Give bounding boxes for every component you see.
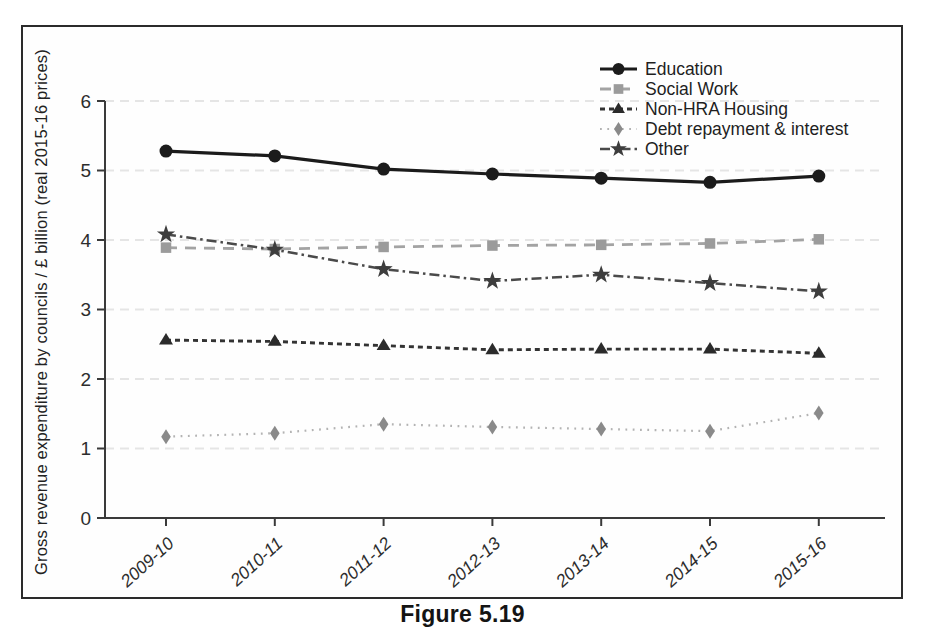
point-social-work-2009-10 [161, 242, 172, 253]
x-tick-label: 2010-11 [226, 533, 287, 591]
legend-label: Social Work [645, 79, 738, 99]
point-education-2015-16 [812, 170, 825, 183]
legend-label: Other [645, 139, 689, 159]
point-social-work-2011-12 [378, 242, 389, 253]
y-tick-label: 1 [80, 438, 91, 459]
point-non-hra-housing-2012-13 [485, 343, 499, 355]
y-tick-label: 0 [80, 508, 91, 529]
point-education-2011-12 [377, 163, 390, 176]
point-debt-repayment-interest-2014-15 [705, 424, 715, 439]
legend-label: Non-HRA Housing [645, 99, 788, 119]
y-tick-label: 5 [80, 160, 91, 181]
point-education-2010-11 [268, 149, 281, 162]
point-social-work-2012-13 [487, 240, 498, 251]
series-education [160, 145, 826, 189]
point-social-work-2014-15 [705, 238, 716, 249]
point-debt-repayment-interest-2013-14 [596, 422, 606, 437]
point-non-hra-housing-2014-15 [703, 342, 717, 354]
x-tick-label: 2015-16 [769, 533, 831, 592]
legend-item-education: Education [600, 59, 723, 79]
point-non-hra-housing-2011-12 [377, 339, 391, 351]
legend-diamond-icon [614, 122, 623, 136]
x-tick-label: 2014-15 [660, 533, 722, 592]
legend-square-icon [614, 84, 624, 94]
figure-caption: Figure 5.19 [0, 601, 925, 628]
point-education-2009-10 [160, 145, 173, 158]
legend-star-icon [610, 140, 627, 156]
figure-frame: 01234562009-102010-112011-122012-132013-… [21, 25, 903, 599]
point-education-2014-15 [704, 176, 717, 189]
point-other-2013-14 [592, 265, 610, 282]
series-social-work [161, 234, 824, 254]
point-other-2015-16 [810, 282, 828, 299]
legend-item-debt-repayment-interest: Debt repayment & interest [600, 119, 848, 139]
point-other-2010-11 [266, 240, 284, 257]
legend-item-social-work: Social Work [600, 79, 738, 99]
series-debt-repayment-interest [161, 406, 823, 445]
point-debt-repayment-interest-2015-16 [814, 406, 824, 421]
point-debt-repayment-interest-2012-13 [488, 419, 498, 434]
legend-circle-icon [613, 63, 625, 75]
point-debt-repayment-interest-2011-12 [379, 417, 389, 432]
axes [97, 101, 885, 526]
legend-label: Debt repayment & interest [645, 119, 848, 139]
y-tick-label: 4 [80, 230, 91, 251]
series-other [157, 225, 828, 299]
x-tick-label: 2013-14 [551, 533, 613, 592]
point-education-2012-13 [486, 167, 499, 180]
legend-item-other: Other [600, 139, 689, 159]
point-social-work-2015-16 [814, 234, 825, 245]
y-axis-label: Gross revenue expenditure by councils / … [32, 49, 50, 575]
y-tick-label: 2 [80, 369, 91, 390]
point-debt-repayment-interest-2009-10 [161, 429, 171, 444]
point-education-2013-14 [595, 172, 608, 185]
x-tick-label: 2012-13 [442, 533, 504, 592]
x-tick-label: 2009-10 [116, 533, 178, 592]
x-tick-label: 2011-12 [334, 533, 395, 591]
y-tick-label: 6 [80, 91, 91, 112]
point-social-work-2013-14 [596, 240, 607, 251]
point-debt-repayment-interest-2010-11 [270, 426, 280, 441]
point-non-hra-housing-2013-14 [594, 342, 608, 354]
y-tick-labels: 0123456 [80, 91, 91, 529]
y-tick-label: 3 [80, 299, 91, 320]
legend: EducationSocial WorkNon-HRA HousingDebt … [600, 59, 848, 159]
series-non-hra-housing [159, 333, 826, 358]
x-tick-labels: 2009-102010-112011-122012-132013-142014-… [116, 533, 831, 592]
legend-label: Education [645, 59, 723, 79]
legend-item-non-hra-housing: Non-HRA Housing [600, 99, 788, 119]
line-chart: 01234562009-102010-112011-122012-132013-… [23, 27, 901, 597]
